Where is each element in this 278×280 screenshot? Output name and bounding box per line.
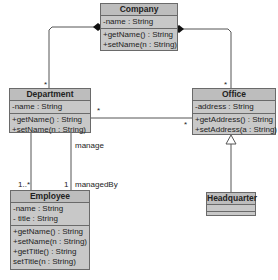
multiplicity-department-composition: * [44,80,47,89]
attribute: - title : String [13,214,87,224]
attributes-section: -name : String [10,101,90,114]
operation: +getTitle() : String [13,247,87,257]
operations-section: +getAddress() : String +setAddress(a : S… [193,114,275,136]
class-company[interactable]: Company -name : String +getName() : Stri… [100,3,178,51]
composition-line-department [49,27,98,88]
attributes-section: -name : String - title : String [11,203,89,226]
operation: +getName() : String [13,227,87,237]
uml-diagram-canvas: Company -name : String +getName() : Stri… [0,0,278,280]
multiplicity-association-office: * [184,120,187,129]
multiplicity-office-composition: * [224,80,227,89]
multiplicity-1: 1 [64,180,68,189]
operations-section: +getName() : String +setName(n : String) [10,114,90,136]
class-headquarter[interactable]: Headquarter [206,192,256,216]
operation: +setAddress(a : String) [195,125,273,135]
class-title: Company [101,4,177,16]
attribute: -name : String [12,102,88,112]
generalization-triangle [226,135,236,144]
multiplicity-association-department: * [97,106,100,115]
attribute: -name : String [13,204,87,214]
attributes-section [207,205,255,212]
association-label-managedby: managedBy [75,180,118,189]
operation: +setName(n : String) [13,237,87,247]
operation: +setName(n : String) [103,40,175,50]
class-department[interactable]: Department -name : String +getName() : S… [9,88,91,133]
operation: setTitle(n : String) [13,257,87,267]
attribute: -name : String [103,17,175,27]
class-title: Department [10,89,90,101]
operations-section: +getName() : String +setName(n : String)… [11,226,89,268]
operation: +setName(n : String) [12,125,88,135]
attributes-section: -name : String [101,16,177,29]
operation: +getAddress() : String [195,115,273,125]
class-title: Office [193,89,275,101]
class-title: Employee [11,191,89,203]
operations-section: +getName() : String +setName(n : String) [101,29,177,51]
multiplicity-1-many: 1..* [18,180,30,189]
class-title: Headquarter [207,193,255,205]
operation: +getName() : String [12,115,88,125]
association-label-manage: manage [75,141,104,150]
class-office[interactable]: Office -address : String +getAddress() :… [192,88,276,135]
operation: +getName() : String [103,30,175,40]
class-employee[interactable]: Employee -name : String - title : String… [10,190,90,270]
attributes-section: -address : String [193,101,275,114]
attribute: -address : String [195,102,273,112]
